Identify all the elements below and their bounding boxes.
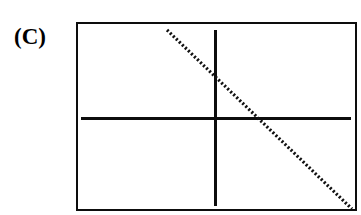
plot-canvas bbox=[78, 24, 359, 213]
plot-frame bbox=[76, 22, 357, 211]
panel-label: (C) bbox=[14, 21, 70, 53]
figure-panel: (C) bbox=[0, 0, 361, 215]
